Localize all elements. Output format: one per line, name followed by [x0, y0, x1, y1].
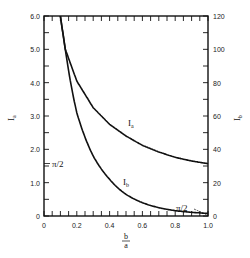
- y-left-title: Ia: [7, 115, 17, 121]
- tick-right-120: 120: [213, 13, 225, 20]
- tick-right-80: 80: [213, 80, 221, 87]
- annotation-pi-half-right: π/2: [176, 203, 188, 213]
- annotation-pi-half-left: π/2: [52, 159, 64, 169]
- tick-left-1: 1.0: [30, 180, 40, 187]
- y-right-title: Ib: [233, 115, 243, 121]
- tick-x-0.4: 0.4: [105, 222, 115, 229]
- curve-ib: [60, 16, 208, 213]
- label-ib: Ib: [123, 177, 129, 188]
- label-ia: Ia: [128, 118, 134, 129]
- x-axis-labels: 0 0.2 0.4 0.6 0.8 1.0: [42, 222, 213, 229]
- tick-right-20: 20: [213, 180, 221, 187]
- tick-left-5: 5.0: [30, 46, 40, 53]
- curve-ia: [60, 16, 208, 164]
- tick-right-40: 40: [213, 146, 221, 153]
- left-axis-labels: 0 1.0 2.0 3.0 4.0 5.0 6.0: [30, 13, 40, 220]
- tick-right-100: 100: [213, 46, 225, 53]
- tick-right-60: 60: [213, 113, 221, 120]
- tick-left-2: 2.0: [30, 146, 40, 153]
- tick-right-0: 0: [213, 213, 217, 220]
- x-axis-title: b a: [122, 232, 130, 250]
- svg-text:Ia: Ia: [7, 115, 17, 121]
- tick-left-3: 3.0: [30, 113, 40, 120]
- right-axis-labels: 0 20 40 60 80 100 120: [213, 13, 225, 220]
- tick-x-1.0: 1.0: [203, 222, 213, 229]
- svg-text:Ib: Ib: [233, 115, 243, 121]
- tick-left-6: 6.0: [30, 13, 40, 20]
- tick-left-0: 0: [36, 213, 40, 220]
- tick-x-0.6: 0.6: [138, 222, 148, 229]
- tick-left-4: 4.0: [30, 80, 40, 87]
- tick-x-0.2: 0.2: [72, 222, 82, 229]
- x-label-denominator: a: [124, 241, 128, 250]
- tick-x-0.8: 0.8: [170, 222, 180, 229]
- chart: 0 1.0 2.0 3.0 4.0 5.0 6.0 0 20 40 60 80 …: [0, 0, 250, 258]
- tick-x-0: 0: [42, 222, 46, 229]
- x-label-numerator: b: [124, 232, 128, 241]
